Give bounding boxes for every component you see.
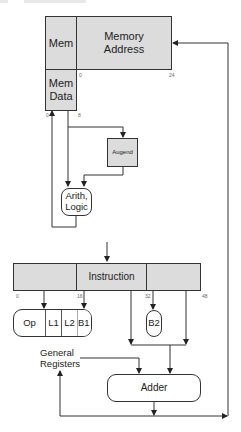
instruction-seg-1 bbox=[13, 263, 77, 291]
instruction-seg-3 bbox=[146, 263, 201, 291]
mem-box: Mem bbox=[45, 16, 77, 70]
logic-line2: Logic bbox=[65, 202, 88, 213]
data-tick-start: 0 bbox=[46, 112, 49, 118]
field-l2-label: L2 bbox=[64, 318, 75, 329]
instruction-label: Instruction bbox=[88, 271, 134, 283]
data-tick-end: 8 bbox=[78, 112, 81, 118]
memory-address-box: Memory Address bbox=[76, 16, 172, 70]
mem-data-line1: Mem bbox=[49, 77, 73, 90]
general-registers-line2: Registers bbox=[40, 359, 80, 370]
field-b1-label: B1 bbox=[78, 318, 90, 329]
instr-tick-16: 16 bbox=[77, 293, 83, 299]
field-b1: B1 bbox=[78, 310, 91, 336]
field-l1: L1 bbox=[46, 310, 62, 336]
mem-data-box: Mem Data bbox=[45, 69, 77, 111]
field-op: Op bbox=[14, 310, 46, 336]
instr-tick-32: 32 bbox=[145, 293, 151, 299]
field-l2: L2 bbox=[62, 310, 78, 336]
b2-label: B2 bbox=[148, 318, 160, 329]
fields-box: Op L1 L2 B1 bbox=[13, 309, 92, 337]
field-op-label: Op bbox=[23, 318, 36, 329]
field-l1-label: L1 bbox=[48, 318, 59, 329]
augend-box: Augend bbox=[107, 138, 138, 167]
instruction-seg-2: Instruction bbox=[76, 263, 147, 291]
memory-address-line1: Memory bbox=[104, 30, 144, 43]
memory-address-line2: Address bbox=[104, 43, 144, 56]
general-registers-label: General Registers bbox=[40, 348, 80, 370]
addr-tick-start: 0 bbox=[79, 72, 82, 78]
arith-logic-box: Arith, Logic bbox=[61, 188, 92, 216]
instr-tick-48: 48 bbox=[202, 293, 208, 299]
b2-box: B2 bbox=[146, 310, 162, 337]
augend-label: Augend bbox=[112, 149, 133, 156]
mem-data-line2: Data bbox=[49, 90, 72, 103]
adder-box: Adder bbox=[107, 374, 201, 402]
adder-label: Adder bbox=[141, 382, 168, 394]
mem-label: Mem bbox=[49, 37, 73, 50]
addr-tick-end: 24 bbox=[169, 72, 175, 78]
instr-tick-0: 0 bbox=[16, 293, 19, 299]
